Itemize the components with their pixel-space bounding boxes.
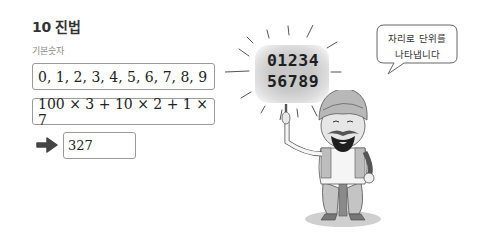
speech-line-2: 나타냅니다 — [378, 47, 456, 63]
right-arrow-icon — [36, 136, 58, 154]
expansion-box: 100 × 3 + 10 × 2 + 1 × 7 — [32, 98, 215, 125]
digits-line-1: 01234 — [258, 50, 328, 71]
speech-line-1: 자리로 단위를 — [378, 31, 456, 47]
digits-line-2: 56789 — [258, 71, 328, 92]
result-text: 327 — [68, 138, 93, 153]
digits-display: 01234 56789 — [258, 50, 328, 92]
digits-list-box: 0, 1, 2, 3, 4, 5, 6, 7, 8, 9 — [32, 63, 215, 90]
section-label: 기본숫자 — [32, 44, 64, 57]
result-box: 327 — [63, 132, 136, 159]
page-title: 10 진법 — [32, 16, 81, 36]
teacher-character-icon — [265, 90, 400, 230]
speech-bubble-text: 자리로 단위를 나타냅니다 — [378, 31, 456, 63]
digits-list-text: 0, 1, 2, 3, 4, 5, 6, 7, 8, 9 — [38, 69, 207, 85]
expansion-text: 100 × 3 + 10 × 2 + 1 × 7 — [38, 96, 214, 128]
